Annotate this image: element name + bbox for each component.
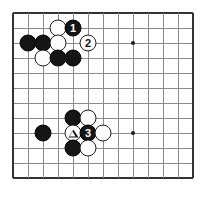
board-stones: 123 [0,0,207,203]
black-stone-b9[interactable] [35,125,52,142]
go-board-diagram: 123 [0,0,207,203]
white-stone-e10[interactable] [80,140,97,157]
black-stone-move-1[interactable]: 1 [65,20,82,37]
white-stone-move-2[interactable]: 2 [80,35,97,52]
stone-move-number: 2 [85,37,91,48]
triangle-mark-icon [68,130,78,138]
black-stone-d4[interactable] [65,50,82,67]
stone-move-number: 1 [70,22,76,33]
stone-move-number: 3 [85,127,91,138]
white-stone-f9[interactable] [95,125,112,142]
